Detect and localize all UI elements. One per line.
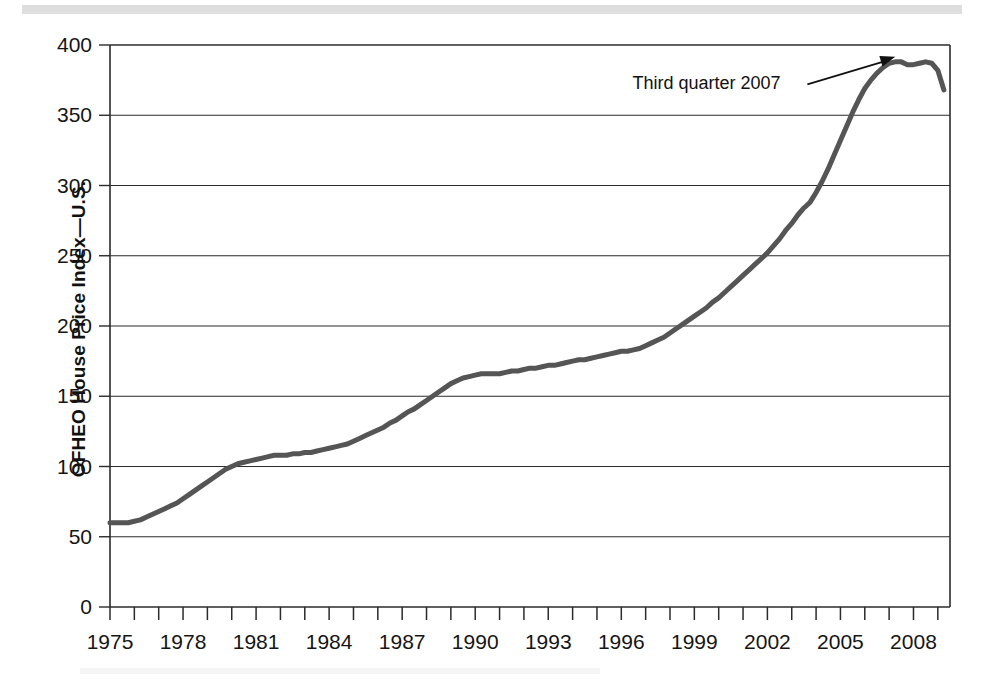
y-tick-label: 300 (28, 174, 92, 198)
y-tick-label: 200 (28, 314, 92, 338)
data-line-series (110, 62, 944, 523)
plot-area (0, 0, 983, 679)
y-tick-label: 400 (28, 33, 92, 57)
y-tick-label: 0 (28, 595, 92, 619)
y-tick-label: 100 (28, 455, 92, 479)
gridlines (99, 45, 950, 607)
x-tick-label: 2008 (868, 630, 958, 654)
y-tick-label: 350 (28, 103, 92, 127)
x-axis-ticks (110, 607, 938, 620)
annotation-label: Third quarter 2007 (632, 73, 780, 94)
y-tick-label: 50 (28, 525, 92, 549)
chart-figure: OFHEO House Price Index—U.S. 05010015020… (0, 0, 983, 679)
y-tick-label: 250 (28, 244, 92, 268)
series-path (110, 62, 944, 523)
y-tick-label: 150 (28, 384, 92, 408)
